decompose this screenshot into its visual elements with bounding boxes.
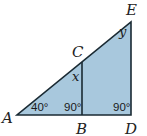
angle-label-B: 90° <box>64 101 81 113</box>
angle-label-A: 40° <box>31 101 48 113</box>
point-label-A: A <box>0 109 13 127</box>
angle-label-x: x <box>72 69 80 84</box>
point-label-B: B <box>75 120 87 136</box>
triangle-diagram: A B C D E 40° 90° 90° x y <box>0 0 147 136</box>
point-label-D: D <box>124 120 137 136</box>
angle-label-D: 90° <box>113 101 130 113</box>
point-label-E: E <box>125 1 137 19</box>
point-label-C: C <box>72 43 84 61</box>
angle-label-y: y <box>118 24 127 39</box>
